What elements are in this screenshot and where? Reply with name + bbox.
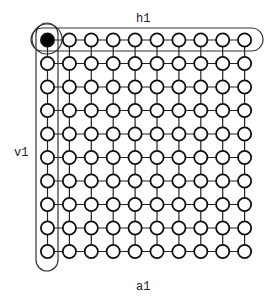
grid-node xyxy=(41,80,54,93)
grid-node xyxy=(238,127,251,140)
grid-node xyxy=(85,198,98,211)
grid-node xyxy=(216,127,229,140)
grid-node xyxy=(107,245,120,258)
grid-node xyxy=(107,174,120,187)
h1-label: h1 xyxy=(136,12,150,26)
grid-node xyxy=(129,198,142,211)
grid-node xyxy=(150,57,163,70)
grid-node xyxy=(129,245,142,258)
grid-node xyxy=(238,174,251,187)
grid-node xyxy=(238,104,251,117)
grid-node xyxy=(194,245,207,258)
grid-node xyxy=(172,104,185,117)
grid-node xyxy=(150,221,163,234)
grid-node xyxy=(41,198,54,211)
grid-node xyxy=(172,80,185,93)
grid-node xyxy=(238,80,251,93)
grid-node xyxy=(150,127,163,140)
grid-edges xyxy=(48,40,245,252)
grid-node xyxy=(216,80,229,93)
grid-node xyxy=(129,221,142,234)
grid-node xyxy=(150,198,163,211)
grid-node xyxy=(238,198,251,211)
grid-node xyxy=(63,198,76,211)
grid-node xyxy=(150,80,163,93)
grid-node xyxy=(63,174,76,187)
v1-label: v1 xyxy=(14,146,28,160)
grid-node xyxy=(85,57,98,70)
grid-nodes xyxy=(41,33,251,258)
grid-node xyxy=(150,151,163,164)
grid-node xyxy=(194,104,207,117)
grid-node xyxy=(85,104,98,117)
grid-node xyxy=(129,151,142,164)
grid-node xyxy=(41,104,54,117)
grid-node xyxy=(216,57,229,70)
grid-node xyxy=(238,245,251,258)
grid-node xyxy=(129,127,142,140)
grid-node xyxy=(216,198,229,211)
grid-node xyxy=(41,127,54,140)
grid-node xyxy=(194,80,207,93)
grid-node xyxy=(129,57,142,70)
grid-node xyxy=(85,151,98,164)
grid-node xyxy=(238,33,251,46)
grid-node xyxy=(63,80,76,93)
grid-node xyxy=(63,33,76,46)
grid-node xyxy=(63,104,76,117)
grid-node xyxy=(41,151,54,164)
grid-node xyxy=(216,104,229,117)
grid-node xyxy=(63,57,76,70)
grid-node xyxy=(238,221,251,234)
grid-node xyxy=(172,174,185,187)
grid-node xyxy=(107,127,120,140)
grid-node xyxy=(107,104,120,117)
grid-node xyxy=(150,174,163,187)
grid-node xyxy=(107,33,120,46)
grid-node xyxy=(41,174,54,187)
grid-node xyxy=(107,221,120,234)
grid-node xyxy=(172,57,185,70)
grid-node xyxy=(194,151,207,164)
grid-node xyxy=(172,221,185,234)
grid-node xyxy=(129,80,142,93)
grid-node xyxy=(107,57,120,70)
grid-node xyxy=(85,245,98,258)
grid-node xyxy=(194,33,207,46)
grid-node xyxy=(238,57,251,70)
grid-diagram: h1 v1 a1 xyxy=(0,0,275,299)
grid-node xyxy=(194,221,207,234)
grid-node xyxy=(194,127,207,140)
grid-node xyxy=(150,245,163,258)
grid-node xyxy=(172,198,185,211)
grid-node xyxy=(41,245,54,258)
a1-label: a1 xyxy=(136,280,150,294)
grid-node xyxy=(216,174,229,187)
grid-node xyxy=(194,174,207,187)
grid-node xyxy=(63,127,76,140)
grid-node xyxy=(107,80,120,93)
grid-node xyxy=(150,33,163,46)
grid-node xyxy=(172,127,185,140)
grid-node xyxy=(41,57,54,70)
grid-node xyxy=(172,245,185,258)
grid-node xyxy=(85,174,98,187)
grid-node xyxy=(129,174,142,187)
grid-node xyxy=(85,33,98,46)
grid-node xyxy=(172,33,185,46)
grid-node xyxy=(41,221,54,234)
grid-node xyxy=(129,104,142,117)
grid-node xyxy=(63,151,76,164)
grid-node xyxy=(85,127,98,140)
grid-node xyxy=(216,245,229,258)
grid-node xyxy=(194,198,207,211)
highlighted-node xyxy=(41,33,54,46)
grid-node xyxy=(107,151,120,164)
grid-node xyxy=(63,221,76,234)
grid-node xyxy=(194,57,207,70)
grid-node xyxy=(216,33,229,46)
grid-node xyxy=(129,33,142,46)
grid-node xyxy=(63,245,76,258)
grid-node xyxy=(216,221,229,234)
grid-node xyxy=(150,104,163,117)
